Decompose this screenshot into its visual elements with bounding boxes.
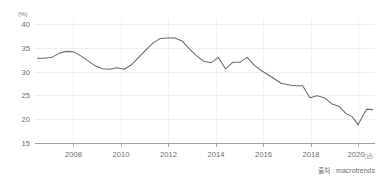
- x-tick-label-2010: 2010: [113, 150, 130, 159]
- x-tick-label-2016: 2016: [255, 150, 272, 159]
- y-axis-unit-label: (%): [18, 10, 28, 17]
- y-axis-tick-labels: 40 35 30 25 20 15: [22, 20, 30, 148]
- chart-container: (%) 40 35 30 25 20 15 2008 2010 2012: [0, 0, 389, 185]
- y-tick-label-30: 30: [22, 68, 30, 77]
- y-tick-label-25: 25: [22, 91, 30, 100]
- horizontal-gridlines: [35, 25, 375, 120]
- x-axis-unit-label: (년): [364, 152, 373, 159]
- source-attribution: 출처 : macrotrends: [318, 166, 375, 175]
- x-tick-label-2020: 2020: [348, 150, 365, 159]
- vertical-gridlines: [74, 19, 359, 144]
- x-tick-label-2018: 2018: [303, 150, 320, 159]
- y-tick-label-20: 20: [22, 115, 30, 124]
- x-tick-label-2014: 2014: [208, 150, 225, 159]
- data-series-line: [37, 38, 372, 125]
- y-tick-label-15: 15: [22, 139, 30, 148]
- line-chart: (%) 40 35 30 25 20 15 2008 2010 2012: [0, 0, 389, 185]
- x-tick-label-2012: 2012: [160, 150, 177, 159]
- y-tick-label-35: 35: [22, 44, 30, 53]
- x-axis-tick-marks: [74, 144, 359, 148]
- x-axis-tick-labels: 2008 2010 2012 2014 2016 2018 2020 (년): [65, 150, 373, 159]
- y-tick-label-40: 40: [22, 20, 30, 29]
- x-tick-label-2008: 2008: [65, 150, 82, 159]
